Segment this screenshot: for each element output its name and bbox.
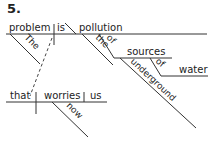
diagram-canvas: problem is pollution The the of sources … (0, 0, 212, 141)
word-us: us (90, 90, 102, 101)
word-is: is (57, 22, 65, 33)
sentence-diagram: 5. problem is pollution The the of sourc… (0, 0, 212, 141)
word-water: water (179, 64, 208, 75)
predicate-nominative-divider (65, 23, 76, 34)
word-worries: worries (44, 90, 80, 101)
exercise-number: 5. (7, 1, 21, 16)
word-that: that (10, 90, 30, 101)
